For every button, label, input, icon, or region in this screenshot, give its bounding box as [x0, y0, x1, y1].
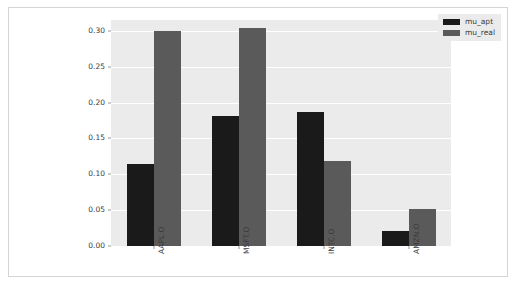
- y-tick-mark: [108, 246, 111, 247]
- legend-color-swatch: [443, 19, 460, 25]
- x-tick-mark: [238, 246, 239, 249]
- bar: [127, 164, 154, 247]
- figure-frame: 0.000.050.100.150.200.250.30 AAPL.OMSFT.…: [8, 7, 508, 277]
- x-tick-label: MSFT.O: [243, 227, 251, 254]
- y-tick-mark: [108, 30, 111, 31]
- bar: [239, 28, 266, 246]
- x-tick-label: INTC.O: [328, 229, 336, 255]
- y-tick-mark: [108, 102, 111, 103]
- legend-label: mu_apt: [465, 18, 493, 26]
- x-tick-mark: [323, 246, 324, 249]
- bar: [382, 231, 409, 246]
- x-tick-mark: [153, 246, 154, 249]
- chart-legend: mu_aptmu_real: [438, 14, 501, 41]
- y-tick-mark: [108, 174, 111, 175]
- y-tick-label: 0.00: [88, 242, 105, 250]
- y-tick-label: 0.20: [88, 99, 105, 107]
- y-tick-label: 0.30: [88, 27, 105, 35]
- chart-plot-area: 0.000.050.100.150.200.250.30 AAPL.OMSFT.…: [111, 20, 451, 246]
- legend-label: mu_real: [465, 29, 495, 37]
- x-tick-label: AAPL.O: [158, 227, 166, 254]
- y-tick-mark: [108, 210, 111, 211]
- x-tick-mark: [408, 246, 409, 249]
- y-tick-mark: [108, 66, 111, 67]
- bar: [297, 112, 324, 246]
- bar: [154, 31, 181, 246]
- legend-entry: mu_real: [443, 29, 495, 37]
- legend-entry: mu_apt: [443, 18, 495, 26]
- y-tick-label: 0.15: [88, 135, 105, 143]
- y-tick-mark: [108, 138, 111, 139]
- y-tick-label: 0.10: [88, 171, 105, 179]
- x-tick-label: AMZN.O: [413, 223, 421, 254]
- bar: [212, 116, 239, 246]
- legend-color-swatch: [443, 30, 460, 36]
- y-tick-label: 0.25: [88, 63, 105, 71]
- y-tick-label: 0.05: [88, 206, 105, 214]
